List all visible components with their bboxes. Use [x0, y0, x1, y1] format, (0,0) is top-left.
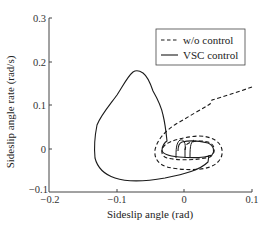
y-tick-label: 0.3 — [33, 13, 46, 24]
y-axis-label: Sideslip angle rate (rad/s) — [4, 55, 17, 168]
legend: w/o control VSC control — [156, 29, 245, 65]
y-tick-labels: 0.3 0.2 0.1 0 −0.1 — [29, 13, 48, 195]
series-vsc-control — [95, 71, 214, 181]
y-tick-label: 0.1 — [33, 100, 46, 111]
phase-plot: 0.3 0.2 0.1 0 −0.1 −0.2 −0.1 0 0.1 Sides… — [0, 0, 271, 238]
legend-label-vsc-control: VSC control — [183, 49, 238, 61]
y-tick-label: 0.2 — [33, 57, 46, 68]
x-tick-labels: −0.2 −0.1 0 0.1 — [40, 194, 258, 205]
y-tick-label: 0 — [41, 144, 46, 155]
legend-label-wo-control: w/o control — [183, 34, 233, 46]
x-tick-label: 0.1 — [245, 194, 258, 205]
x-tick-label: −0.2 — [40, 194, 59, 205]
x-tick-label: −0.1 — [107, 194, 126, 205]
x-axis-label: Sideslip angle (rad) — [107, 208, 193, 221]
x-tick-label: 0 — [181, 194, 186, 205]
